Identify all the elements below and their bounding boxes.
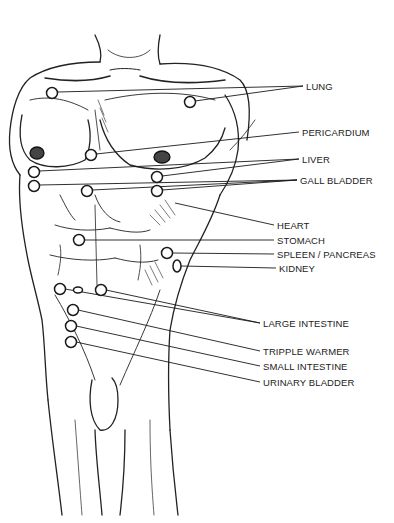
label-small-intestine: SMALL INTESTINE <box>263 361 348 372</box>
point-large-intestine-center <box>74 287 83 293</box>
point-gall-bladder-center <box>82 186 93 197</box>
torso-drawing <box>9 35 255 515</box>
point-liver-left <box>29 167 40 178</box>
label-urinary-bladder: URINARY BLADDER <box>263 377 354 388</box>
label-pericardium: PERICARDIUM <box>302 127 370 138</box>
label-gall-bladder: GALL BLADDER <box>300 175 373 186</box>
point-small-intestine <box>66 321 77 332</box>
label-liver: LIVER <box>302 154 330 165</box>
point-lung-left <box>47 88 58 99</box>
point-gall-bladder-right <box>152 186 163 197</box>
label-heart: HEART <box>277 220 310 231</box>
point-large-intestine-left <box>55 284 66 295</box>
label-lung: LUNG <box>306 81 333 92</box>
point-liver-right <box>152 172 163 183</box>
point-tripple-warmer <box>68 305 79 316</box>
label-tripple-warmer: TRIPPLE WARMER <box>263 346 350 357</box>
point-stomach <box>74 235 85 246</box>
point-markers <box>29 88 196 348</box>
point-kidney <box>173 260 181 272</box>
torso-diagram <box>0 0 394 523</box>
point-gall-bladder-left <box>29 181 40 192</box>
point-large-intestine-right <box>96 285 107 296</box>
label-spleen-pancreas: SPLEEN / PANCREAS <box>277 249 376 260</box>
label-kidney: KIDNEY <box>279 263 315 274</box>
label-stomach: STOMACH <box>277 235 325 246</box>
point-spleen-pancreas <box>162 248 173 259</box>
point-urinary-bladder <box>66 337 77 348</box>
label-large-intestine: LARGE INTESTINE <box>263 318 349 329</box>
point-lung-right <box>185 97 196 108</box>
point-pericardium <box>86 150 97 161</box>
